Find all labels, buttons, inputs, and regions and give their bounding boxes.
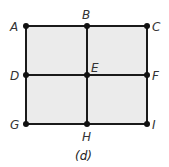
label-B: B	[82, 8, 90, 22]
label-E: E	[91, 61, 99, 75]
label-C: C	[152, 20, 161, 34]
point-F	[144, 72, 150, 78]
label-I: I	[152, 118, 156, 132]
grid-diagram: A B C D E F G H I (d)	[0, 0, 169, 167]
label-A: A	[9, 20, 18, 34]
point-G	[23, 121, 29, 127]
point-C	[144, 23, 150, 29]
point-B	[84, 23, 90, 29]
point-D	[23, 72, 29, 78]
point-I	[144, 121, 150, 127]
point-A	[23, 23, 29, 29]
caption: (d)	[75, 149, 92, 163]
label-F: F	[152, 69, 160, 83]
point-E	[84, 72, 90, 78]
label-G: G	[10, 118, 19, 132]
label-D: D	[10, 69, 19, 83]
label-H: H	[82, 130, 91, 144]
point-H	[84, 121, 90, 127]
